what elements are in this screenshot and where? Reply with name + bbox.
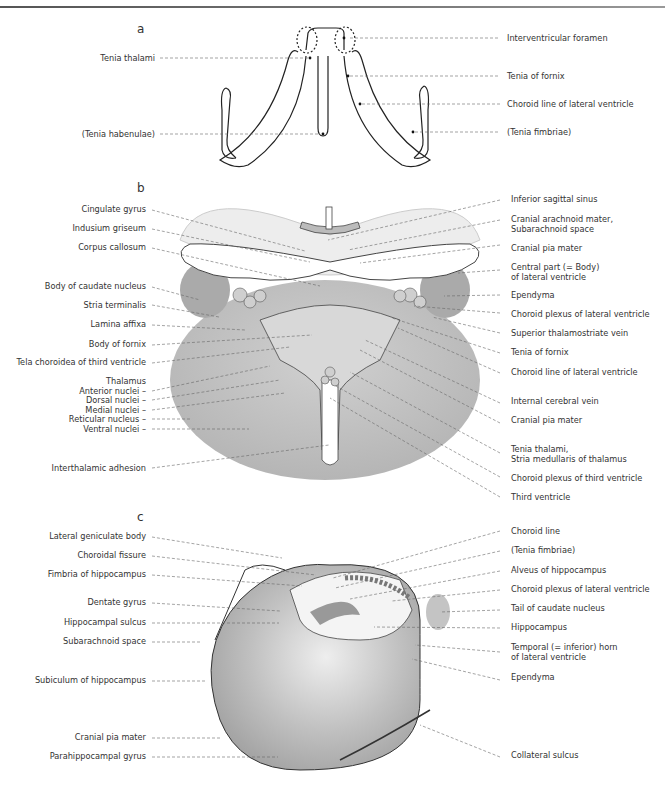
label-tenia-fimbriae: (Tenia fimbriae) [507, 127, 571, 137]
label-corpus-callosum: Corpus callosum [78, 242, 146, 252]
panel-a-fornix-diagram [220, 27, 430, 167]
label-tail-of-caudate: Tail of caudate nucleus [511, 603, 605, 613]
label-tenia-fimbriae-c: (Tenia fimbriae) [511, 545, 575, 555]
panel-c-hippocampus-section [211, 564, 450, 770]
label-cranial-arachnoid-mater: Cranial arachnoid mater, [511, 214, 613, 224]
label-thalamus: Thalamus [106, 376, 146, 386]
label-stria-medullaris: Stria medullaris of thalamus [511, 454, 627, 464]
label-dentate-gyrus: Dentate gyrus [88, 597, 146, 607]
label-alveus-of-hippocampus: Alveus of hippocampus [511, 565, 606, 575]
label-tenia-of-fornix-b: Tenia of fornix [511, 347, 569, 357]
label-choroidal-fissure: Choroidal fissure [77, 550, 146, 560]
label-of-lateral-ventricle: of lateral ventricle [511, 272, 586, 282]
label-choroid-line-b: Choroid line of lateral ventricle [511, 367, 638, 377]
label-choroid-plexus-lateral: Choroid plexus of lateral ventricle [511, 309, 649, 319]
label-cranial-pia-mater-b: Cranial pia mater [511, 415, 582, 425]
label-hippocampal-sulcus: Hippocampal sulcus [64, 617, 146, 627]
label-ependyma: Ependyma [511, 290, 555, 300]
label-tenia-of-fornix: Tenia of fornix [507, 71, 565, 81]
label-central-part: Central part (= Body) [511, 262, 599, 272]
label-subiculum: Subiculum of hippocampus [35, 675, 146, 685]
label-parahippocampal-gyrus: Parahippocampal gyrus [50, 751, 146, 761]
label-choroid-line-lateral-ventricle: Choroid line of lateral ventricle [507, 99, 634, 109]
label-temporal-horn: Temporal (= inferior) horn [511, 642, 618, 652]
label-stria-terminalis: Stria terminalis [84, 300, 146, 310]
label-tenia-thalami-b: Tenia thalami, [511, 444, 568, 454]
label-dorsal-nuclei: Dorsal nuclei – [86, 395, 146, 405]
label-internal-cerebral-vein: Internal cerebral vein [511, 396, 599, 406]
label-hippocampus: Hippocampus [511, 622, 567, 632]
label-of-lateral-ventricle-c: of lateral ventricle [511, 652, 586, 662]
label-cranial-pia-mater-c: Cranial pia mater [75, 732, 146, 742]
label-interthalamic-adhesion: Interthalamic adhesion [52, 463, 146, 473]
label-third-ventricle: Third ventricle [511, 492, 570, 502]
label-subarachnoid-space: Subarachnoid space [511, 224, 594, 234]
label-cranial-pia-mater: Cranial pia mater [511, 243, 582, 253]
label-fimbria-of-hippocampus: Fimbria of hippocampus [48, 569, 146, 579]
label-choroid-plexus-third: Choroid plexus of third ventricle [511, 473, 642, 483]
label-cingulate-gyrus: Cingulate gyrus [81, 204, 146, 214]
label-indusium-griseum: Indusium griseum [72, 223, 146, 233]
label-interventricular-foramen: Interventricular foramen [507, 33, 608, 43]
label-inferior-sagittal-sinus: Inferior sagittal sinus [511, 194, 597, 204]
label-subarachnoid-space-c: Subarachnoid space [63, 636, 146, 646]
label-superior-thalamostriate-vein: Superior thalamostriate vein [511, 328, 628, 338]
label-choroid-plexus-lateral-c: Choroid plexus of lateral ventricle [511, 584, 649, 594]
label-tela-choroidea: Tela choroidea of third ventricle [17, 357, 147, 367]
label-body-of-fornix: Body of fornix [89, 339, 146, 349]
label-lateral-geniculate-body: Lateral geniculate body [49, 531, 146, 541]
label-body-of-caudate-nucleus: Body of caudate nucleus [45, 281, 146, 291]
label-collateral-sulcus: Collateral sulcus [511, 750, 579, 760]
label-ventral-nuclei: Ventral nuclei – [83, 424, 146, 434]
label-choroid-line-c: Choroid line [511, 526, 560, 536]
label-tenia-habenulae: (Tenia habenulae) [82, 129, 155, 139]
label-reticular-nucleus: Reticular nucleus – [69, 414, 146, 424]
label-lamina-affixa: Lamina affixa [91, 319, 146, 329]
label-ependyma-c: Ependyma [511, 672, 555, 682]
label-tenia-thalami: Tenia thalami [100, 53, 155, 63]
